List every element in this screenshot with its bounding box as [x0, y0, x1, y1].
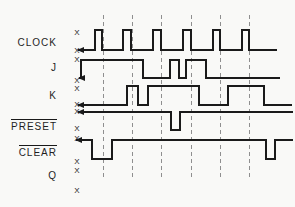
- waveform-clock: [78, 30, 277, 50]
- unknown-state-mark-clear-low: X: [74, 157, 80, 166]
- waveform-preset: [78, 112, 293, 130]
- unknown-state-mark-clock-high: X: [74, 28, 80, 37]
- unknown-state-mark-q-low: X: [74, 186, 80, 195]
- unknown-state-mark-j-high: X: [74, 55, 80, 64]
- unknown-state-mark-clock-low: X: [74, 46, 80, 55]
- signal-label-j: J: [6, 62, 57, 73]
- signal-label-clock: CLOCK: [6, 37, 57, 48]
- signal-label-clear: CLEAR: [6, 145, 57, 158]
- unknown-state-mark-preset-high: X: [74, 107, 80, 116]
- unknown-state-mark-q-high: X: [74, 166, 80, 175]
- waveform-clear: [76, 140, 293, 159]
- signal-label-preset: PRESET: [6, 119, 57, 132]
- unknown-state-mark-preset-low: X: [74, 124, 80, 133]
- waveform-k: [78, 86, 292, 105]
- figure-root: XXXXXXXXXXXX CLOCK J K PRESET CLEAR Q: [0, 0, 295, 207]
- unknown-state-mark-k-high: X: [74, 84, 80, 93]
- signal-label-k: K: [6, 90, 57, 101]
- unknown-state-mark-clear-high: X: [74, 134, 80, 143]
- signal-label-q: Q: [6, 170, 57, 181]
